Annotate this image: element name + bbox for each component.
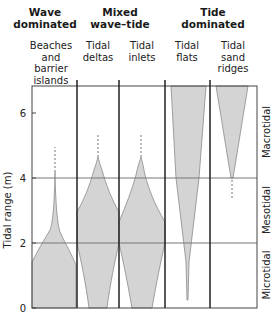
y-tick-label-0: 0 [20, 303, 26, 314]
zone-label-macrotidal: Macrotidal [261, 106, 272, 158]
y-axis-label: Tidal range (m) [2, 171, 13, 249]
shape-tidal-flats [171, 86, 206, 300]
y-tick-label-2: 2 [20, 238, 26, 249]
shape-tidal-deltas [77, 157, 119, 308]
zone-label-microtidal: Microtidal [261, 251, 272, 300]
y-tick-label-6: 6 [20, 108, 26, 119]
y-tick-label-4: 4 [20, 173, 26, 184]
shape-tidal-inlets [119, 157, 165, 308]
tidal-range-diagram: 0 2 4 6 Tidal range (m) Macrotidal Mesot… [0, 0, 278, 324]
zone-label-mesotidal: Mesotidal [261, 186, 272, 234]
shape-beaches [32, 172, 76, 308]
shape-tidal-sand-ridges [216, 86, 248, 178]
